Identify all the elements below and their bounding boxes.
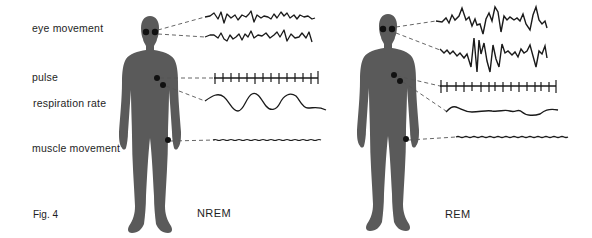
rem-body-silhouette	[357, 14, 419, 231]
nrem-muscle-trace	[213, 140, 321, 141]
nrem-eye-trace-1	[205, 11, 315, 23]
nrem-body-silhouette	[119, 16, 181, 233]
rem-respiration-trace	[446, 107, 558, 116]
rem-muscle-trace	[456, 137, 568, 138]
rem-eye-trace-2	[440, 38, 547, 72]
rem-eye-trace-1	[436, 7, 547, 34]
rem-traces	[436, 7, 568, 138]
nrem-traces	[205, 11, 326, 141]
nrem-eye-trace-2	[205, 30, 312, 42]
diagram-artwork	[0, 0, 592, 238]
nrem-respiration-trace	[205, 93, 326, 111]
